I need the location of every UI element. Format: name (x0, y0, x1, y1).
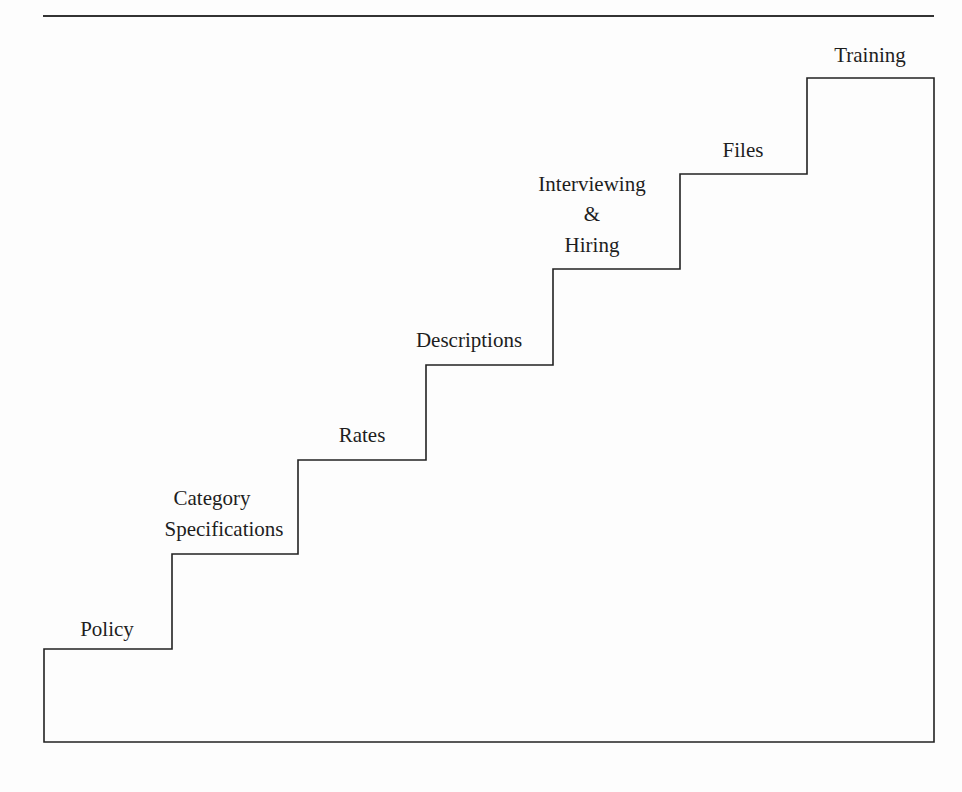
staircase-diagram: Policy Category Specifications Rates Des… (0, 0, 962, 792)
step-label-category-line2: Specifications (165, 517, 284, 541)
step-label-policy: Policy (80, 617, 134, 641)
step-label-interviewing-line3: Hiring (565, 233, 620, 257)
step-label-descriptions: Descriptions (416, 328, 522, 352)
step-label-files: Files (723, 138, 764, 162)
step-label-category-line1: Category (174, 486, 251, 510)
step-label-interviewing-line2: & (584, 202, 600, 226)
step-label-training: Training (834, 43, 906, 67)
staircase-outline (44, 78, 934, 742)
diagram-svg: Policy Category Specifications Rates Des… (0, 0, 962, 792)
step-label-interviewing-line1: Interviewing (538, 172, 646, 196)
step-label-rates: Rates (339, 423, 386, 447)
